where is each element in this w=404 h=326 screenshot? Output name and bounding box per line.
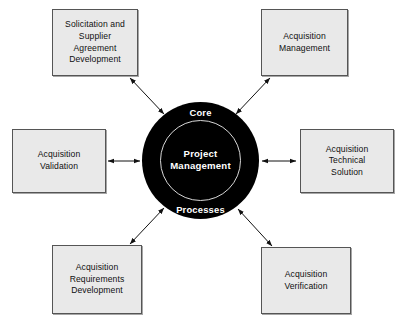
node-label: Acquisition Technical Solution <box>303 144 391 179</box>
node-solicitation-and-supplier-agreement-development[interactable]: Solicitation and Supplier Agreement Deve… <box>52 9 138 76</box>
node-acquisition-technical-solution[interactable]: Acquisition Technical Solution <box>300 129 394 193</box>
node-label-line: Management <box>264 43 345 55</box>
node-label-line: Solution <box>303 167 391 179</box>
node-acquisition-requirements-development[interactable]: Acquisition Requirements Development <box>52 245 142 314</box>
node-label: Acquisition Validation <box>15 149 103 172</box>
node-label: Acquisition Management <box>264 31 345 54</box>
node-label-line: Acquisition <box>15 149 103 161</box>
node-label-line: Acquisition <box>55 262 139 274</box>
hub-top-label: Core <box>142 107 259 118</box>
node-acquisition-verification[interactable]: Acquisition Verification <box>261 247 351 314</box>
node-label: Acquisition Verification <box>264 269 348 292</box>
process-diagram: Solicitation and Supplier Agreement Deve… <box>0 0 404 326</box>
node-label-line: Acquisition <box>264 31 345 43</box>
node-label-line: Agreement <box>55 43 135 55</box>
node-label: Solicitation and Supplier Agreement Deve… <box>55 19 135 65</box>
node-label-line: Supplier <box>55 31 135 43</box>
hub-center-label-line: Management <box>142 160 259 172</box>
hub-bottom-label: Processes <box>142 204 259 215</box>
node-label-line: Validation <box>15 161 103 173</box>
node-label: Acquisition Requirements Development <box>55 262 139 297</box>
node-label-line: Development <box>55 54 135 66</box>
hub-center-label-line: Project <box>142 148 259 160</box>
node-acquisition-management[interactable]: Acquisition Management <box>261 9 348 76</box>
node-acquisition-validation[interactable]: Acquisition Validation <box>12 129 106 193</box>
node-label-line: Acquisition <box>303 144 391 156</box>
node-label-line: Requirements <box>55 274 139 286</box>
node-label-line: Technical <box>303 155 391 167</box>
hub-center-label: Project Management <box>142 148 259 172</box>
node-label-line: Development <box>55 285 139 297</box>
node-label-line: Verification <box>264 281 348 293</box>
node-label-line: Acquisition <box>264 269 348 281</box>
node-label-line: Solicitation and <box>55 19 135 31</box>
core-processes-hub[interactable]: Core Project Management Processes <box>142 102 259 219</box>
